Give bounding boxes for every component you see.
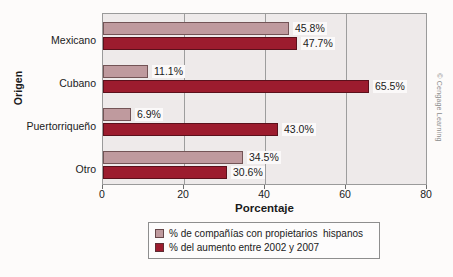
x-axis-title: Porcentaje	[102, 202, 427, 214]
bar-label-puertorriqueno-series0: 6.9%	[135, 108, 163, 121]
chart-legend: % de compañías con propietarios hispanos…	[148, 222, 380, 259]
legend-label-series1: % del aumento entre 2002 y 2007	[169, 242, 319, 253]
bar-label-cubano-series1: 65.5%	[373, 80, 407, 93]
bar-label-puertorriqueno-series1: 43.0%	[282, 123, 316, 136]
bar-label-mexicano-series0: 45.8%	[293, 22, 327, 35]
legend-item-series1[interactable]: % del aumento entre 2002 y 2007	[155, 240, 373, 254]
xtick-label-40: 40	[249, 188, 279, 200]
bar-otro-series0[interactable]	[103, 151, 243, 164]
copyright-watermark: © Cengage Learning	[436, 68, 443, 148]
chart-figure: Origen 45.8% 47.7% 11.1% 65.5% 6.9% 43.0…	[0, 0, 453, 277]
plot-area: 45.8% 47.7% 11.1% 65.5% 6.9% 43.0% 34.5%…	[102, 13, 427, 185]
legend-label-series0: % de compañías con propietarios hispanos	[169, 228, 363, 239]
bar-label-otro-series0: 34.5%	[247, 151, 281, 164]
bar-label-otro-series1: 30.6%	[231, 166, 265, 179]
category-label-otro: Otro	[76, 163, 96, 175]
bar-label-cubano-series0: 11.1%	[152, 65, 185, 78]
category-label-mexicano: Mexicano	[51, 34, 96, 46]
bar-label-mexicano-series1: 47.7%	[301, 37, 335, 50]
y-axis-title: Origen	[12, 48, 24, 128]
bar-puertorriqueno-series1[interactable]	[103, 123, 278, 136]
legend-swatch-icon-series0	[155, 229, 164, 238]
bar-puertorriqueno-series0[interactable]	[103, 108, 131, 121]
xtick-label-0: 0	[87, 188, 117, 200]
bar-mexicano-series0[interactable]	[103, 22, 289, 35]
xtick-label-60: 60	[330, 188, 360, 200]
xtick-label-20: 20	[168, 188, 198, 200]
xtick-label-80: 80	[411, 188, 441, 200]
legend-item-series0[interactable]: % de compañías con propietarios hispanos	[155, 226, 373, 240]
gridline-60	[346, 14, 347, 184]
bar-cubano-series0[interactable]	[103, 65, 148, 78]
bar-mexicano-series1[interactable]	[103, 37, 297, 50]
legend-swatch-icon-series1	[155, 243, 164, 252]
category-label-cubano: Cubano	[59, 77, 96, 89]
category-label-puertorriqueno: Puertorriqueño	[27, 120, 96, 132]
bar-otro-series1[interactable]	[103, 166, 227, 179]
bar-cubano-series1[interactable]	[103, 80, 369, 93]
